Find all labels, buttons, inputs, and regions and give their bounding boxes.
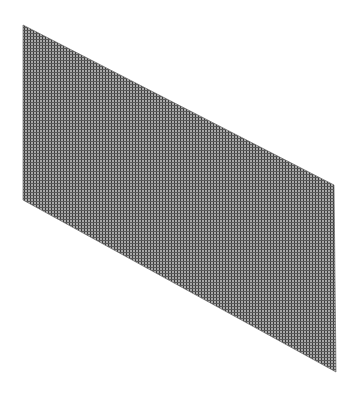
mesh-plane: [23, 25, 336, 372]
wireframe-mesh-figure: [0, 0, 356, 396]
mesh-surface: [23, 25, 336, 372]
